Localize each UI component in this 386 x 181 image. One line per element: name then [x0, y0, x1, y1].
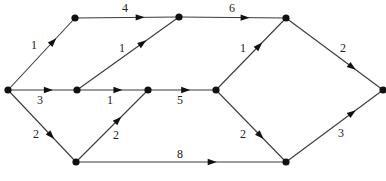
- node-h: [282, 158, 289, 165]
- node-c: [72, 158, 79, 165]
- node-b: [73, 86, 80, 93]
- edge-weight-label: 3: [338, 126, 344, 140]
- node-d: [175, 13, 182, 20]
- edge-weight-label: 6: [229, 1, 235, 15]
- edge-weight-label: 1: [240, 41, 246, 55]
- edge-d-f: [179, 17, 286, 18]
- edge-weight-label: 8: [177, 147, 183, 161]
- node-e: [144, 86, 151, 93]
- arrowhead-icon: [136, 14, 145, 20]
- edge-weight-label: 1: [31, 38, 37, 52]
- edge-weight-label: 3: [37, 93, 43, 107]
- edge-a-d: [75, 17, 179, 18]
- edge-labels-layer: 13241128651223: [31, 1, 346, 161]
- edge-s-a: [8, 18, 75, 90]
- node-g: [212, 86, 219, 93]
- edge-weight-label: 5: [177, 93, 183, 107]
- edge-weight-label: 2: [113, 128, 119, 142]
- edge-weight-label: 2: [240, 127, 246, 141]
- arrowhead-icon: [137, 40, 146, 48]
- edge-weight-label: 1: [119, 41, 125, 55]
- edges-layer: [8, 17, 383, 162]
- node-f: [282, 14, 289, 21]
- edge-h-t: [286, 90, 383, 162]
- edge-weight-label: 4: [122, 1, 128, 15]
- arrowhead-icon: [347, 110, 356, 118]
- arrowhead-icon: [113, 87, 122, 93]
- edge-weight-label: 1: [107, 93, 113, 107]
- arrowhead-icon: [241, 14, 250, 20]
- edge-weight-label: 2: [33, 127, 39, 141]
- node-s: [4, 86, 11, 93]
- arrowhead-icon: [208, 159, 217, 165]
- edge-g-f: [216, 18, 286, 90]
- edge-f-t: [286, 18, 383, 90]
- edge-b-d: [77, 17, 179, 90]
- arrowhead-icon: [44, 87, 53, 93]
- network-diagram: 13241128651223: [0, 0, 386, 181]
- arrowhead-icon: [347, 62, 356, 70]
- node-a: [71, 14, 78, 21]
- edge-g-h: [216, 90, 286, 162]
- edge-weight-label: 2: [340, 41, 346, 55]
